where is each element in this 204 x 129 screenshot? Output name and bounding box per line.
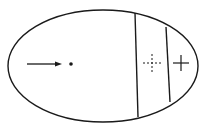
diagram-canvas [0, 0, 204, 129]
divider-line-right [166, 27, 170, 102]
divider-line-left [135, 13, 138, 117]
arrow-icon [27, 62, 62, 67]
point-dot [69, 62, 73, 66]
ellipse-diagram [0, 0, 204, 129]
outer-ellipse [8, 10, 198, 122]
solid-cross-icon [173, 55, 189, 71]
dashed-cross-icon [143, 54, 161, 72]
